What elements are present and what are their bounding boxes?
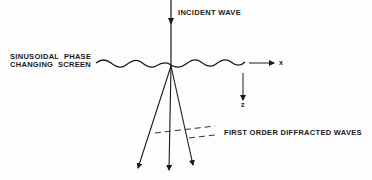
incident-wave-label: INCIDENT WAVE — [178, 9, 241, 17]
diagram-canvas — [0, 0, 372, 180]
diffraction-diagram: INCIDENT WAVE SINUSOIDAL PHASE CHANGING … — [0, 0, 372, 180]
diffracted-ray-right — [171, 66, 193, 165]
z-axis-label: z — [241, 101, 245, 109]
leader-line-lower — [189, 135, 215, 138]
screen-label-line2: CHANGING SCREEN — [10, 61, 91, 69]
diffracted-ray-left — [138, 66, 171, 168]
transmitted-ray-center — [169, 66, 171, 170]
diffracted-waves-label: FIRST ORDER DIFFRACTED WAVES — [224, 129, 362, 137]
x-axis-label: x — [279, 59, 283, 67]
incident-arrowhead-icon — [168, 18, 174, 25]
